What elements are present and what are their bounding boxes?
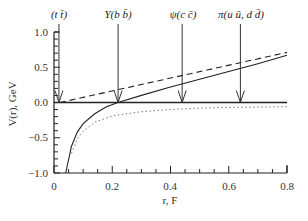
series-group [54, 52, 287, 173]
x-tick-0: 0 [51, 180, 57, 192]
series-total-potential [66, 55, 287, 173]
x-tick-0.6: 0.6 [222, 180, 236, 192]
x-tick-labels: 0 0.2 0.4 0.6 0.8 [51, 180, 294, 192]
potential-chart: 1.0 0.5 0.0 −0.5 −1.0 0 0.2 0.4 0.6 0.8 … [0, 0, 308, 221]
annotation-pion: π(u ū, d d̄) [218, 8, 264, 21]
y-tick-neg1.0: −1.0 [28, 167, 48, 179]
y-tick-0.5: 0.5 [34, 61, 48, 73]
y-axis-label: V(r), GeV [6, 81, 19, 126]
annotation-upsilon: Υ(b b̄) [104, 8, 132, 21]
x-ticks [54, 166, 287, 173]
x-axis-label: r, F [163, 194, 178, 206]
series-linear-confining-term [60, 52, 287, 102]
annotation-psi: ψ(c c̄) [170, 8, 197, 21]
state-arrows [55, 24, 244, 103]
annotation-toponium: (t t̄) [51, 8, 68, 21]
x-tick-0.8: 0.8 [280, 180, 294, 192]
y-tick-0.0: 0.0 [34, 96, 48, 108]
y-tick-neg0.5: −0.5 [28, 131, 48, 143]
annotations: (t t̄) Υ(b b̄) ψ(c c̄) π(u ū, d d̄) [51, 8, 264, 21]
y-tick-1.0: 1.0 [34, 26, 48, 38]
y-tick-labels: 1.0 0.5 0.0 −0.5 −1.0 [28, 26, 48, 179]
series-Coulomb-like-term [72, 107, 288, 154]
x-tick-0.4: 0.4 [163, 180, 177, 192]
x-tick-0.2: 0.2 [105, 180, 119, 192]
